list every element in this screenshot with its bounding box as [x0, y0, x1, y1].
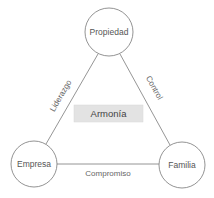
node-label-propiedad: Propiedad [90, 27, 129, 37]
edge-label-liderazgo: Liderazgo [48, 78, 74, 113]
edge-control [120, 54, 170, 145]
center-harmony-box: Armonía [74, 105, 143, 122]
center-label-armonia: Armonía [91, 108, 128, 119]
node-propiedad: Propiedad [85, 8, 133, 56]
triangle-diagram: Propiedad Empresa Familia Liderazgo Cont… [0, 0, 214, 198]
node-label-familia: Familia [168, 160, 196, 170]
node-label-empresa: Empresa [17, 159, 51, 169]
edge-label-compromiso: Compromiso [85, 169, 131, 178]
node-empresa: Empresa [11, 141, 57, 187]
node-familia: Familia [159, 142, 205, 188]
edge-label-control: Control [144, 74, 164, 101]
